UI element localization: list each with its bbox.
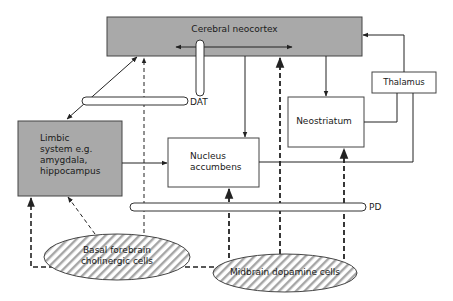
dat-vertical-tube [196,40,204,96]
neostriatum-label: Neostriatum [288,116,360,127]
limbic-label-line-1: Limbic [40,133,69,144]
dat-label: DAT [190,97,208,108]
limbic-label-line-3: amygdala, [40,155,87,166]
limbic-label-line-4: hippocampus [40,166,100,177]
pd-tube [130,203,366,211]
accumbens-label-line-2: accumbens [190,162,242,173]
thalamus-label: Thalamus [372,77,436,88]
midbrain-label: Midbrain dopamine cells [215,267,355,278]
accumbens-label-line-1: Nucleus [190,151,226,162]
pd-label: PD [369,202,381,213]
thalamus-to-neocortex-arrow [363,35,404,72]
dat-horizontal-tube [82,97,188,105]
limbic-label-line-2: system e.g. [40,144,92,155]
thalamus-to-neostriatum-line [364,93,397,122]
neocortex-label: Cerebral neocortex [107,24,362,35]
neocortex-limbic-arrow [67,57,137,119]
basal-forebrain-to-limbic-arrow [68,197,95,234]
basal-forebrain-label-line-2: cholinergic cells [50,256,184,267]
neocortex-box [107,17,362,56]
basal-forebrain-label-line-1: Basal forebrain [50,245,184,256]
